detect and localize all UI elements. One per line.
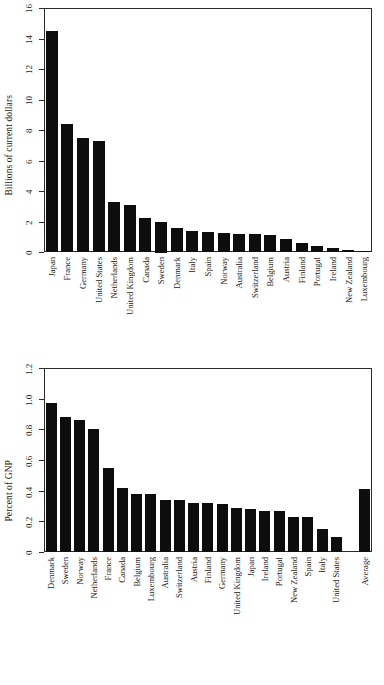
x-axis-tick-label: Germany [78, 257, 88, 289]
bar [327, 248, 339, 252]
bar [155, 222, 167, 253]
x-axis-tick-label: Germany [217, 557, 227, 589]
x-axis-tick-label: New Zealand [344, 257, 354, 303]
x-axis-tick-label: Sweden [60, 557, 70, 584]
x-axis-tick-label: Spain [203, 257, 213, 277]
y-axis-tick [39, 521, 44, 522]
y-axis-title: Billions of current dollars [4, 95, 14, 196]
y-axis-tick [39, 252, 44, 253]
bar [202, 503, 213, 552]
x-axis-tick-label: Norway [219, 257, 229, 285]
bar [145, 494, 156, 552]
x-axis-tick-label: United Kingdom [125, 257, 135, 315]
x-axis-tick-label: Switzerland [174, 557, 184, 598]
x-axis-tick-label: Netherlands [109, 257, 119, 299]
bar [302, 517, 313, 552]
x-axis-tick-label: Switzerland [250, 257, 260, 298]
y-axis-tick-label: 0.6 [24, 451, 34, 471]
bar [74, 420, 85, 552]
bar [174, 500, 185, 552]
y-axis-tick [39, 552, 44, 553]
x-axis-tick-label: Denmark [172, 257, 182, 289]
bar [46, 31, 58, 252]
y-axis-tick-label: 0.8 [24, 420, 34, 440]
bar [131, 494, 142, 552]
y-axis-tick [39, 222, 44, 223]
x-axis-tick-label: New Zealand [289, 557, 299, 603]
bar [218, 233, 230, 252]
y-axis-tick-label: 0.4 [24, 482, 34, 502]
bar [259, 511, 270, 552]
chart-billions-of-current-dollars: Billions of current dollars0246810121416… [0, 0, 384, 350]
x-axis-tick-label: France [103, 557, 113, 580]
bar [359, 489, 370, 552]
bar [317, 529, 328, 552]
x-axis-tick-label: United Kingdom [232, 557, 242, 615]
y-axis-tick-label: 1.2 [24, 359, 34, 379]
y-axis-tick-label: 6 [24, 152, 34, 172]
y-axis-tick [39, 69, 44, 70]
x-axis-tick-label: Norway [75, 557, 85, 585]
bar [358, 251, 370, 252]
x-axis-tick-label: Japan [246, 557, 256, 577]
bar [249, 234, 261, 252]
y-axis-tick [39, 429, 44, 430]
y-axis-tick [39, 161, 44, 162]
bar [88, 429, 99, 552]
x-axis-tick-label: Austria [281, 257, 291, 282]
bar [233, 234, 245, 252]
y-axis-tick-label: 10 [24, 91, 34, 111]
y-axis-tick-label: 16 [24, 0, 34, 19]
x-axis-tick-label: Netherlands [89, 557, 99, 599]
bar [103, 468, 114, 552]
x-axis-tick-label: United States [331, 557, 341, 603]
y-axis-tick [39, 399, 44, 400]
y-axis-tick [39, 460, 44, 461]
x-axis-tick-label: Luxembourg [359, 257, 369, 301]
y-axis-title: Percent of GNP [4, 460, 14, 522]
bar [124, 205, 136, 252]
y-axis-tick-label: 2 [24, 213, 34, 233]
bar [61, 124, 73, 252]
bar [46, 403, 57, 552]
y-axis-tick-label: 0.2 [24, 512, 34, 532]
bar [186, 231, 198, 252]
bar [264, 235, 276, 252]
x-axis-tick-label: Belgium [265, 257, 275, 287]
x-axis-tick-label: Sweden [156, 257, 166, 284]
x-axis-tick-label: Australia [234, 257, 244, 289]
y-axis-tick [39, 100, 44, 101]
bar [117, 488, 128, 552]
bar [60, 417, 71, 552]
y-axis-tick [39, 8, 44, 9]
x-axis-tick-label: Italy [187, 257, 197, 273]
x-axis-tick-label: Canada [117, 557, 127, 583]
y-axis-tick-label: 0 [24, 243, 34, 263]
x-axis-tick-label: Portugal [274, 557, 284, 586]
bar [108, 202, 120, 252]
bar [202, 232, 214, 252]
y-axis-tick-label: 8 [24, 121, 34, 141]
x-axis-tick-label: Finland [203, 557, 213, 583]
y-axis-tick-label: 0 [24, 543, 34, 563]
y-axis-tick [39, 130, 44, 131]
y-axis-tick [39, 368, 44, 369]
y-axis-tick-label: 4 [24, 182, 34, 202]
chart-percent-of-gnp: Percent of GNP00.20.40.60.81.01.2Denmark… [0, 350, 384, 685]
bar [311, 246, 323, 252]
bar [160, 500, 171, 552]
y-axis-tick-label: 12 [24, 60, 34, 80]
x-axis-tick-label: Finland [297, 257, 307, 283]
x-axis-tick-label: Average [360, 557, 370, 585]
bar [171, 228, 183, 252]
bar [93, 141, 105, 252]
x-axis-tick-label: Denmark [46, 557, 56, 589]
x-axis-tick-label: Austria [189, 557, 199, 582]
bar [288, 517, 299, 552]
y-axis-tick [39, 39, 44, 40]
y-axis-tick [39, 191, 44, 192]
bar [274, 511, 285, 552]
bar [342, 250, 354, 252]
bar [188, 503, 199, 552]
bar [296, 243, 308, 252]
